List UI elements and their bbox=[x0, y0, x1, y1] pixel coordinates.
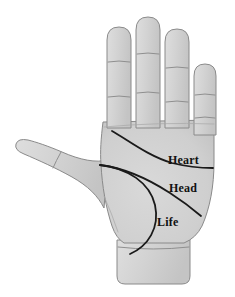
wrist-shape bbox=[117, 240, 190, 284]
finger-middle-shape bbox=[136, 17, 160, 128]
finger-index-shape bbox=[107, 27, 131, 128]
label-life-line: Life bbox=[157, 216, 178, 228]
label-head-line: Head bbox=[169, 182, 197, 194]
hand-illustration bbox=[0, 0, 235, 297]
hand-silhouette bbox=[16, 17, 216, 284]
thumb-shape bbox=[16, 140, 108, 209]
finger-ring-shape bbox=[165, 29, 189, 128]
label-heart-line: Heart bbox=[168, 154, 199, 166]
palmistry-diagram: Heart Head Life bbox=[0, 0, 235, 297]
